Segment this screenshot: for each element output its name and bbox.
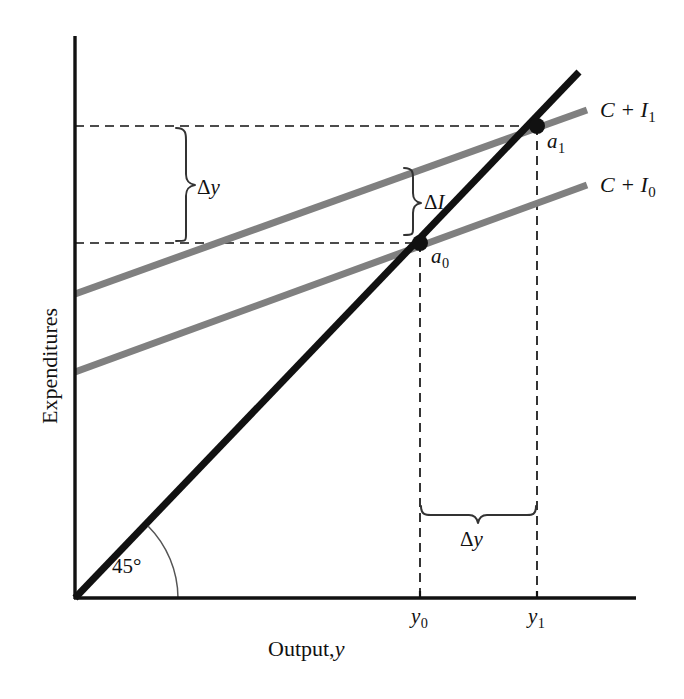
point-a1-base: a (547, 129, 558, 153)
delta-y-vertical-delta-glyph: Δ (197, 175, 211, 199)
point-label-a0: a0 (431, 246, 449, 270)
angle-label-45-degrees: 45° (112, 556, 141, 577)
delta-i-delta-glyph: Δ (424, 190, 438, 214)
point-a0-base: a (431, 244, 442, 268)
figure-root: Expenditures Output,y y0 y1 C + I1 C + I… (0, 0, 684, 699)
tick-y0-subscript: 0 (420, 615, 428, 631)
brace-label-delta-y-vertical: Δy (197, 177, 220, 198)
point-a1-subscript: 1 (558, 140, 566, 156)
delta-i-variable: I (438, 190, 445, 214)
brace-delta-y-vertical (176, 128, 195, 241)
y-axis-label: Expenditures (39, 286, 61, 446)
chart-canvas (0, 0, 684, 699)
delta-y-horizontal-variable: y (474, 527, 483, 551)
x-tick-label-y0: y0 (411, 606, 428, 630)
x-axis-label: Output,y (268, 638, 344, 660)
point-marker-a1[interactable] (529, 118, 545, 134)
angle-arc-45 (148, 526, 178, 598)
curve-label-c-plus-i1: C + I1 (600, 99, 656, 125)
x-axis-label-variable: y (335, 636, 345, 661)
curve-ci1-base: I (641, 97, 648, 122)
tick-y0-base: y (411, 604, 420, 628)
curve-ci1-prefix: C + (600, 97, 641, 122)
line-c-plus-i1[interactable] (75, 110, 587, 294)
tick-y1-subscript: 1 (537, 615, 545, 631)
curve-ci0-base: I (641, 172, 648, 197)
delta-y-horizontal-delta-glyph: Δ (460, 527, 474, 551)
curve-ci0-subscript: 0 (648, 184, 656, 200)
equilibrium-points-group (412, 118, 545, 251)
brace-label-delta-y-horizontal: Δy (460, 529, 483, 550)
line-c-plus-i0[interactable] (75, 185, 587, 372)
line-forty-five-degree[interactable] (75, 72, 579, 598)
point-a0-subscript: 0 (442, 255, 450, 271)
delta-y-vertical-variable: y (211, 175, 220, 199)
curve-label-c-plus-i0: C + I0 (600, 174, 656, 200)
curve-ci1-subscript: 1 (648, 109, 656, 125)
point-marker-a0[interactable] (412, 235, 428, 251)
x-axis-label-prefix: Output, (268, 636, 335, 661)
point-label-a1: a1 (547, 131, 565, 155)
brace-delta-y-horizontal (421, 506, 536, 523)
tick-y1-base: y (528, 604, 537, 628)
curve-ci0-prefix: C + (600, 172, 641, 197)
x-tick-label-y1: y1 (528, 606, 545, 630)
brace-label-delta-i: ΔI (424, 192, 445, 213)
